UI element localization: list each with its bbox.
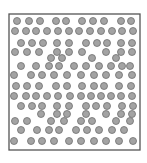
particle-circle <box>46 127 53 134</box>
particle-circle <box>104 40 111 47</box>
particle-circle <box>90 18 97 25</box>
particle-circle <box>54 49 61 56</box>
particle-circle <box>103 111 110 118</box>
particle-circle <box>116 138 123 145</box>
particle-circle <box>55 28 62 35</box>
particle-circle <box>12 28 19 35</box>
particle-circle <box>113 55 120 62</box>
particle-circle <box>79 18 86 25</box>
particle-circle <box>36 49 43 56</box>
particle-circle <box>12 118 19 125</box>
particle-circle <box>129 111 136 118</box>
particle-circle <box>33 93 40 100</box>
particle-circle <box>26 18 33 25</box>
particle-circle <box>127 63 134 70</box>
particle-circle <box>23 93 30 100</box>
particle-circle <box>89 118 96 125</box>
particle-circle <box>79 83 86 90</box>
particle-circle <box>33 63 40 70</box>
particle-circle <box>24 49 31 56</box>
particle-circle <box>29 103 36 110</box>
particle-circle <box>64 111 71 118</box>
particle-circle <box>83 63 90 70</box>
particle-circle <box>55 93 62 100</box>
particle-circle <box>129 40 136 47</box>
particle-circle <box>113 118 120 125</box>
particle-circle <box>59 55 66 62</box>
particle-circle <box>66 28 73 35</box>
particle-circle <box>108 63 115 70</box>
particle-circle <box>34 127 41 134</box>
particle-circle <box>119 103 126 110</box>
particle-circle <box>14 18 21 25</box>
particle-circle <box>129 49 136 56</box>
particle-circle <box>53 18 60 25</box>
particle-circle <box>48 118 55 125</box>
particle-circle <box>44 28 51 35</box>
particle-circle <box>12 49 19 56</box>
particle-circle <box>36 83 43 90</box>
particle-circle <box>130 103 137 110</box>
particle-circle <box>39 138 46 145</box>
particle-circle <box>66 40 73 47</box>
particle-circle <box>84 127 91 134</box>
particle-circle <box>51 72 58 79</box>
particle-circle <box>63 18 70 25</box>
particle-circle <box>64 83 71 90</box>
particle-circle <box>18 63 25 70</box>
particle-circle <box>73 127 80 134</box>
particle-circle <box>11 72 18 79</box>
particle-circle <box>29 40 36 47</box>
particle-circle <box>78 93 85 100</box>
particle-circle <box>11 93 18 100</box>
particle-circle <box>67 93 74 100</box>
particle-diagram <box>0 0 147 163</box>
particle-circle <box>53 83 60 90</box>
particle-circle <box>51 138 58 145</box>
particle-circle <box>64 72 71 79</box>
particle-circle <box>116 83 123 90</box>
particle-circle <box>118 40 125 47</box>
particle-circle <box>129 93 136 100</box>
particle-circle <box>93 103 100 110</box>
particle-circle <box>96 127 103 134</box>
particle-circle <box>44 93 51 100</box>
particle-circle <box>61 118 68 125</box>
particle-circle <box>33 28 40 35</box>
particle-circle <box>23 28 30 35</box>
particle-circle <box>109 28 116 35</box>
particle-circle <box>119 63 126 70</box>
particle-circle <box>103 72 110 79</box>
particle-circle <box>119 28 126 35</box>
particle-circle <box>83 111 90 118</box>
particle-circle <box>24 118 31 125</box>
particle-circle <box>56 63 63 70</box>
particle-circle <box>66 49 73 56</box>
particle-circle <box>128 18 135 25</box>
particle-circle <box>56 127 63 134</box>
particle-circle <box>83 103 90 110</box>
particle-circle <box>89 55 96 62</box>
particle-circle <box>101 18 108 25</box>
particle-circle <box>38 111 45 118</box>
particle-circle <box>66 103 73 110</box>
particle-circle <box>28 138 35 145</box>
particle-circle <box>28 72 35 79</box>
particle-circle <box>88 93 95 100</box>
particle-circle <box>127 118 134 125</box>
particle-circle <box>11 138 18 145</box>
particle-circle <box>37 18 44 25</box>
particle-circle <box>87 28 94 35</box>
particle-circle <box>121 127 128 134</box>
particle-circle <box>91 72 98 79</box>
particle-circle <box>129 72 136 79</box>
particle-circle <box>108 93 115 100</box>
particle-circle <box>91 83 98 90</box>
particle-circle <box>83 40 90 47</box>
particle-circle <box>130 28 137 35</box>
particle-circle <box>13 83 20 90</box>
particle-circle <box>118 111 125 118</box>
particle-circle <box>54 103 61 110</box>
particle-circle <box>109 127 116 134</box>
particle-circle <box>76 28 83 35</box>
